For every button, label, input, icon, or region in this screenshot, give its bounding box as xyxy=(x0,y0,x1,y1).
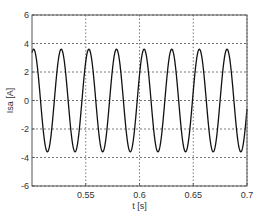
y-axis-ticks: -6-4-20246 xyxy=(21,10,35,191)
x-tick-label: 0.6 xyxy=(133,190,146,200)
y-tick-label: -2 xyxy=(21,124,29,134)
sinusoid-current-chart: 0.550.60.650.7 -6-4-20246 t [s] Isa [A] xyxy=(0,0,258,217)
y-tick-label: 6 xyxy=(24,10,29,20)
y-tick-label: 2 xyxy=(24,67,29,77)
x-tick-label: 0.65 xyxy=(184,190,202,200)
y-tick-label: 0 xyxy=(24,96,29,106)
x-axis-label: t [s] xyxy=(132,201,147,211)
grid-lines xyxy=(32,15,247,186)
y-tick-label: -6 xyxy=(21,181,29,191)
y-axis-label: Isa [A] xyxy=(5,88,15,114)
y-tick-label: -4 xyxy=(21,153,29,163)
x-tick-label: 0.55 xyxy=(77,190,95,200)
y-tick-label: 4 xyxy=(24,39,29,49)
x-tick-label: 0.7 xyxy=(241,190,254,200)
